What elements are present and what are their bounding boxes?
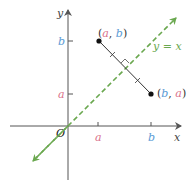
paren-close: ) bbox=[123, 27, 127, 40]
y-tick-label-b: b bbox=[58, 35, 65, 48]
coord-sep: , bbox=[109, 27, 116, 40]
reflection-diagram: x y O a b b a y = x (a, b) (b, a) bbox=[0, 0, 193, 191]
right-angle-marker bbox=[121, 59, 129, 63]
point-b-a bbox=[148, 91, 153, 96]
x-tick-label-b: b bbox=[148, 131, 155, 144]
y-tick-label-a: a bbox=[58, 88, 65, 101]
point-b-a-label: (b, a) bbox=[157, 87, 186, 100]
coord-sep: , bbox=[168, 87, 175, 100]
y-axis-label: y bbox=[56, 7, 64, 20]
line-label: y = x bbox=[152, 40, 182, 53]
coord-x: b bbox=[161, 87, 168, 100]
paren-close: ) bbox=[182, 87, 186, 100]
x-axis-label: x bbox=[174, 131, 181, 144]
coord-y: b bbox=[116, 27, 123, 40]
x-tick-label-a: a bbox=[95, 131, 102, 144]
reflection-segment bbox=[99, 41, 151, 94]
point-a-b-label: (a, b) bbox=[98, 27, 127, 40]
